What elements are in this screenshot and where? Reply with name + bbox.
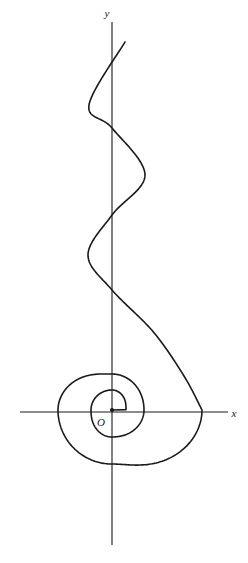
figure-canvas: x y O [0, 0, 248, 563]
y-axis-label: y [104, 7, 110, 19]
x-axis-label: x [231, 407, 237, 419]
origin-dot [110, 408, 114, 412]
spiral-wave-curve [58, 42, 202, 465]
polar-spiral-figure: x y O [0, 0, 248, 563]
origin-label: O [97, 416, 105, 428]
